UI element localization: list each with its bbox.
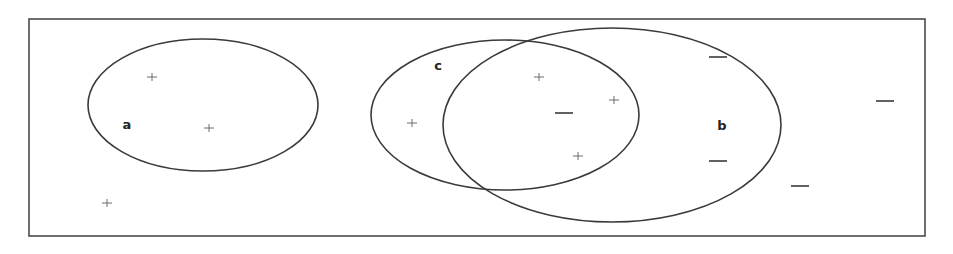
universe-frame <box>29 19 925 236</box>
plus-sign-icon <box>407 119 417 127</box>
set-a-ellipse <box>88 39 318 171</box>
plus-sign-icon <box>102 199 112 207</box>
set-b-label: b <box>717 118 726 133</box>
set-c-label: c <box>434 58 442 73</box>
plus-sign-icon <box>534 73 544 81</box>
points-layer <box>102 57 894 207</box>
labels-layer: acb <box>123 58 727 133</box>
set-a-label: a <box>123 117 132 132</box>
plus-sign-icon <box>609 96 619 104</box>
set-c-ellipse <box>371 40 639 190</box>
set-b-ellipse <box>443 28 781 222</box>
plus-sign-icon <box>147 73 157 81</box>
plus-sign-icon <box>204 124 214 132</box>
plus-sign-icon <box>573 152 583 160</box>
venn-diagram: acb <box>0 0 953 254</box>
